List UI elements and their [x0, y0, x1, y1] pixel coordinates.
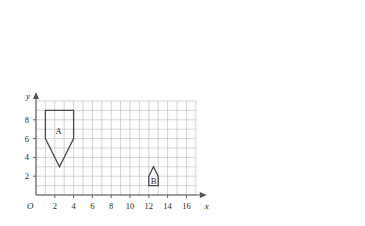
- x-axis-tick-label: 6: [90, 201, 94, 211]
- y-axis-tick-label: 6: [25, 134, 29, 144]
- x-axis-name: x: [204, 201, 209, 211]
- x-axis-tick-label: 10: [126, 201, 135, 211]
- y-axis-tick-label: 4: [25, 152, 30, 162]
- shape-label-b: B: [151, 176, 157, 186]
- x-axis-arrow-icon: [200, 192, 207, 198]
- x-axis-tick-label: 8: [109, 201, 113, 211]
- axis-names: Oxy: [25, 91, 209, 211]
- x-axis-tick-label: 4: [71, 201, 76, 211]
- y-axis-tick-label: 2: [25, 171, 29, 181]
- grid-lines: [36, 101, 196, 195]
- x-axis-tick-label: 2: [53, 201, 57, 211]
- shape-label-a: A: [55, 126, 62, 136]
- axis-lines: [33, 92, 207, 198]
- y-axis-tick-label: 8: [25, 115, 29, 125]
- shape-labels: AB: [55, 126, 156, 186]
- origin-label: O: [27, 201, 34, 211]
- y-axis-name: y: [25, 91, 30, 101]
- x-axis-tick-label: 12: [145, 201, 154, 211]
- x-axis-tick-label: 16: [182, 201, 191, 211]
- y-axis-arrow-icon: [33, 92, 39, 99]
- coordinate-grid-figure: 2468101214162468 AB Oxy: [0, 0, 365, 226]
- x-axis-tick-label: 14: [163, 201, 172, 211]
- plot-canvas: 2468101214162468 AB Oxy: [0, 0, 365, 226]
